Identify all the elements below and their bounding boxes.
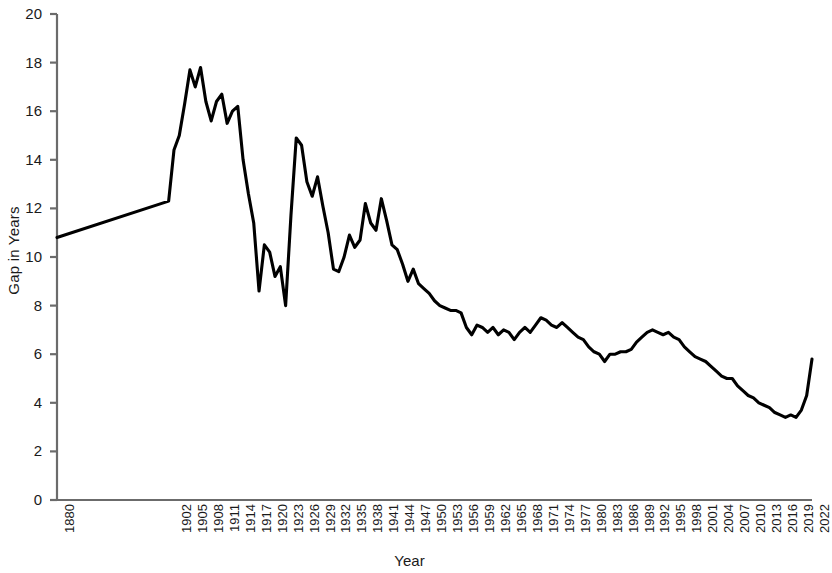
data-series-line [57, 67, 812, 417]
x-axis-tick-label: 2022 [818, 504, 831, 533]
x-axis-title: Year [0, 552, 819, 569]
axis-lines [57, 14, 812, 500]
